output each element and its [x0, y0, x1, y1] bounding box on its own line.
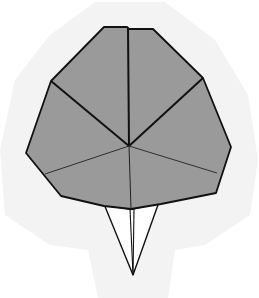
origami-diagram — [0, 0, 259, 298]
crease-top — [128, 28, 129, 146]
